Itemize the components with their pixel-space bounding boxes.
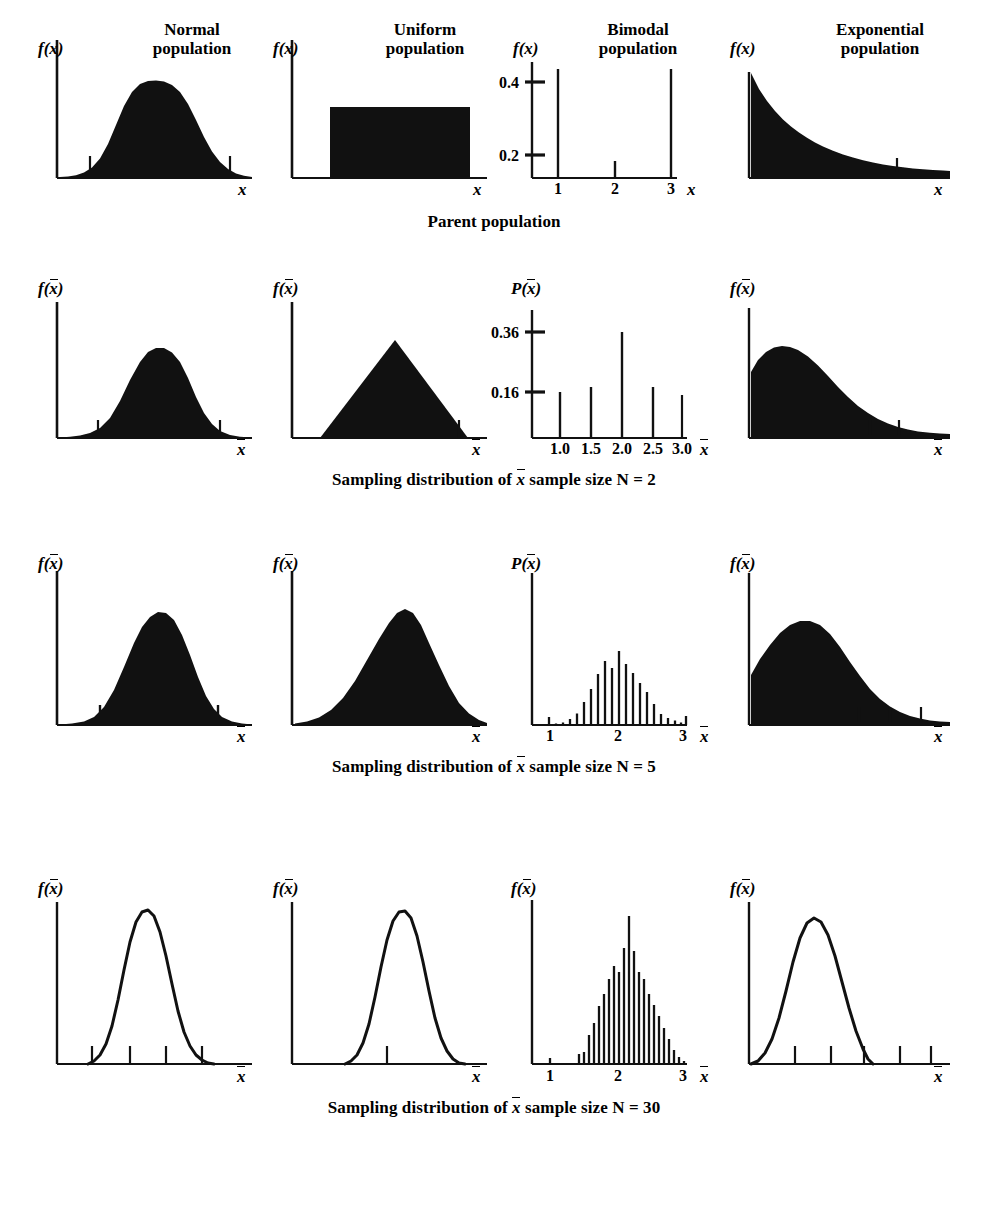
- chart-exponential-n30: [718, 880, 958, 1080]
- x-tick-2: 2: [605, 1067, 631, 1085]
- y-axis-label: f(x): [273, 880, 299, 897]
- y-axis-label: f(x): [273, 555, 299, 572]
- chart-bimodal-n2: [487, 280, 697, 455]
- panel-bimodal-n2: P(x) 0.36 0.16 1.0 1.5 2.0 2.5 3.0 x: [487, 280, 697, 455]
- x-axis-label: x: [237, 1067, 246, 1087]
- y-axis-label: f(x): [273, 280, 299, 297]
- x-axis-label: x: [687, 180, 696, 200]
- x-axis-label: x: [934, 1067, 943, 1087]
- x-tick-3: 3: [670, 727, 696, 745]
- x-axis-label: x: [700, 727, 709, 747]
- panel-normal-n2: f(x) x: [30, 280, 260, 455]
- row-sampling-n30: f(x) x f(x): [0, 870, 988, 1150]
- y-tick-0p4: 0.4: [479, 74, 519, 92]
- x-axis-label: x: [472, 727, 481, 747]
- y-axis-label: f(x): [38, 555, 64, 572]
- panel-bimodal-n5: P(x): [487, 555, 697, 740]
- y-axis-label: f(x): [730, 555, 756, 572]
- y-axis-label: f(x): [511, 880, 537, 897]
- caption-xbar: x: [516, 757, 525, 777]
- caption-sampling-n30: Sampling distribution of x sample size N…: [0, 1098, 988, 1118]
- y-axis-label: f(x): [38, 280, 64, 297]
- y-axis-label: f(x): [273, 40, 299, 57]
- panel-normal-parent: f(x) Normal population x: [30, 20, 260, 195]
- x-tick-2: 2: [605, 727, 631, 745]
- x-tick-1: 1: [537, 727, 563, 745]
- chart-bimodal-n30: [487, 880, 697, 1080]
- x-axis-label: x: [934, 180, 943, 200]
- chart-normal-n2: [30, 280, 260, 455]
- x-axis-label: x: [238, 180, 247, 200]
- x-tick-1: 1: [545, 180, 571, 198]
- caption-suffix: sample size N = 2: [525, 470, 656, 489]
- central-limit-theorem-figure: f(x) Normal population x f(x) Uniform po…: [0, 0, 988, 1217]
- row-parent-population: f(x) Normal population x f(x) Uniform po…: [0, 0, 988, 250]
- y-axis-label: P(x): [511, 555, 541, 572]
- panel-title-uniform: Uniform population: [345, 20, 505, 58]
- panel-exponential-n2: f(x) x: [718, 280, 958, 455]
- panel-normal-n30: f(x) x: [30, 880, 260, 1080]
- x-axis-label: x: [934, 440, 943, 460]
- x-tick-3p0: 3.0: [662, 440, 702, 458]
- panel-title-normal: Normal population: [112, 20, 272, 58]
- panel-title-bimodal: Bimodal population: [563, 20, 713, 58]
- chart-exponential-n5: [718, 555, 958, 740]
- caption-xbar: x: [512, 1098, 521, 1118]
- chart-uniform-n5: [265, 555, 495, 740]
- panel-normal-n5: f(x) x: [30, 555, 260, 740]
- caption-prefix: Sampling distribution of: [332, 470, 516, 489]
- panel-bimodal-n30: f(x): [487, 880, 697, 1080]
- y-axis-label: f(x): [38, 880, 64, 897]
- chart-uniform-n2: [265, 280, 495, 455]
- y-axis-label: f(x): [730, 880, 756, 897]
- panel-exponential-n5: f(x) x: [718, 555, 958, 740]
- caption-suffix: sample size N = 30: [521, 1098, 661, 1117]
- x-tick-3: 3: [658, 180, 684, 198]
- panel-bimodal-parent: f(x) Bimodal population 0.4 0.2 1 2 3 x: [487, 20, 687, 195]
- caption-sampling-n2: Sampling distribution of x sample size N…: [0, 470, 988, 490]
- y-axis-label: f(x): [38, 40, 64, 57]
- caption-sampling-n5: Sampling distribution of x sample size N…: [0, 757, 988, 777]
- x-axis-label: x: [700, 1067, 709, 1087]
- panel-uniform-n5: f(x) x: [265, 555, 495, 740]
- panel-exponential-parent: f(x) Exponential population x: [718, 20, 958, 195]
- y-axis-label: f(x): [730, 40, 756, 57]
- y-tick-0p16: 0.16: [469, 384, 519, 402]
- chart-bimodal-n5: [487, 555, 697, 740]
- caption-prefix: Sampling distribution of: [332, 757, 516, 776]
- chart-exponential-n2: [718, 280, 958, 455]
- x-tick-3: 3: [670, 1067, 696, 1085]
- panel-exponential-n30: f(x) x: [718, 880, 958, 1080]
- y-tick-0p2: 0.2: [479, 147, 519, 165]
- x-tick-1: 1: [537, 1067, 563, 1085]
- x-axis-label: x: [237, 440, 246, 460]
- panel-uniform-n30: f(x) x: [265, 880, 495, 1080]
- caption-parent-population: Parent population: [0, 212, 988, 232]
- chart-normal-n30: [30, 880, 260, 1080]
- x-axis-label: x: [472, 440, 481, 460]
- panel-uniform-parent: f(x) Uniform population x: [265, 20, 495, 195]
- row-sampling-n5: f(x) x f(x) x P(x): [0, 545, 988, 810]
- caption-xbar: x: [516, 470, 525, 490]
- panel-title-exponential: Exponential population: [790, 20, 970, 58]
- y-tick-0p36: 0.36: [469, 324, 519, 342]
- panel-uniform-n2: f(x) x: [265, 280, 495, 455]
- chart-uniform-n30: [265, 880, 495, 1080]
- caption-prefix: Sampling distribution of: [328, 1098, 512, 1117]
- row-sampling-n2: f(x) x f(x) x: [0, 270, 988, 520]
- x-axis-label: x: [237, 727, 246, 747]
- x-tick-2: 2: [602, 180, 628, 198]
- y-axis-label: f(x): [730, 280, 756, 297]
- x-axis-label: x: [934, 727, 943, 747]
- caption-suffix: sample size N = 5: [525, 757, 656, 776]
- x-axis-label: x: [700, 440, 709, 460]
- y-axis-label: f(x): [513, 40, 539, 57]
- x-axis-label: x: [472, 1067, 481, 1087]
- x-axis-label: x: [473, 180, 482, 200]
- chart-normal-n5: [30, 555, 260, 740]
- y-axis-label: P(x): [511, 280, 541, 297]
